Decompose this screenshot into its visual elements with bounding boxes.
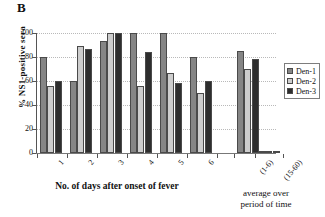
legend-label: Den-1 xyxy=(296,67,316,76)
bar-group xyxy=(258,33,281,153)
x-tick-mark xyxy=(255,154,256,158)
bar[interactable] xyxy=(100,41,107,153)
bar[interactable] xyxy=(77,46,84,153)
bar[interactable] xyxy=(40,57,47,153)
bar[interactable] xyxy=(175,83,182,153)
legend-item[interactable]: Den-3 xyxy=(287,86,316,96)
y-tick-label: 100 xyxy=(9,29,33,37)
bar[interactable] xyxy=(237,51,244,153)
x-tick-mark xyxy=(67,154,68,158)
y-tick-label: 0 xyxy=(9,149,33,157)
average-period-caption: average over period of time xyxy=(216,188,316,210)
bar[interactable] xyxy=(145,52,152,153)
bar[interactable] xyxy=(265,151,272,153)
bar-group xyxy=(40,33,63,153)
legend-swatch xyxy=(287,68,293,74)
x-tick-label: 5 xyxy=(176,158,185,167)
bar[interactable] xyxy=(258,151,265,153)
legend: Den-1Den-2Den-3 xyxy=(284,63,320,99)
bar[interactable] xyxy=(273,151,280,153)
x-tick-mark xyxy=(217,154,218,158)
figure-panel-b: B % NS1-positive sera 020406080100 12345… xyxy=(0,0,325,217)
y-tick-label: 60 xyxy=(9,77,33,85)
x-tick-label: (1-6) xyxy=(258,158,275,176)
y-tick-label: 40 xyxy=(9,101,33,109)
bar[interactable] xyxy=(197,93,204,153)
bar-group xyxy=(160,33,183,153)
x-tick-label: 4 xyxy=(146,158,155,167)
bar-group xyxy=(70,33,93,153)
x-tick-label: 2 xyxy=(86,158,95,167)
x-tick-label: 6 xyxy=(206,158,215,167)
legend-label: Den-2 xyxy=(296,77,316,86)
y-axis-title: % NS1-positive sera xyxy=(17,7,27,127)
x-tick-mark xyxy=(127,154,128,158)
bar[interactable] xyxy=(167,73,174,153)
bar-group xyxy=(237,33,260,153)
bar[interactable] xyxy=(244,69,251,153)
bar[interactable] xyxy=(55,81,62,153)
bar[interactable] xyxy=(115,33,122,153)
x-tick-mark xyxy=(97,154,98,158)
legend-label: Den-3 xyxy=(296,87,316,96)
bar-group xyxy=(130,33,153,153)
bar[interactable] xyxy=(190,57,197,153)
legend-swatch xyxy=(287,88,293,94)
legend-item[interactable]: Den-2 xyxy=(287,76,316,86)
average-caption-line-1: average over xyxy=(216,188,316,199)
bar[interactable] xyxy=(47,86,54,153)
x-tick-label: 3 xyxy=(116,158,125,167)
x-tick-mark xyxy=(37,154,38,158)
x-axis-line xyxy=(36,153,276,154)
x-tick-mark xyxy=(187,154,188,158)
bar[interactable] xyxy=(160,33,167,153)
x-tick-mark xyxy=(157,154,158,158)
bar[interactable] xyxy=(130,33,137,153)
y-tick-label: 80 xyxy=(9,53,33,61)
x-tick-mark xyxy=(283,154,284,158)
bar-group xyxy=(190,33,213,153)
y-tick-label: 20 xyxy=(9,125,33,133)
bar[interactable] xyxy=(107,33,114,153)
plot-area xyxy=(36,33,276,154)
bar[interactable] xyxy=(205,81,212,153)
x-axis-title: No. of days after onset of fever xyxy=(22,181,212,191)
bar[interactable] xyxy=(137,86,144,153)
x-tick-label: (15-60) xyxy=(282,158,304,182)
legend-swatch xyxy=(287,78,293,84)
y-axis-line xyxy=(36,33,37,154)
legend-item[interactable]: Den-1 xyxy=(287,66,316,76)
bar[interactable] xyxy=(70,81,77,153)
x-tick-label: 1 xyxy=(56,158,65,167)
x-tick-mark xyxy=(234,154,235,158)
average-caption-line-2: period of time xyxy=(216,199,316,210)
bar[interactable] xyxy=(85,49,92,153)
bar-group xyxy=(100,33,123,153)
